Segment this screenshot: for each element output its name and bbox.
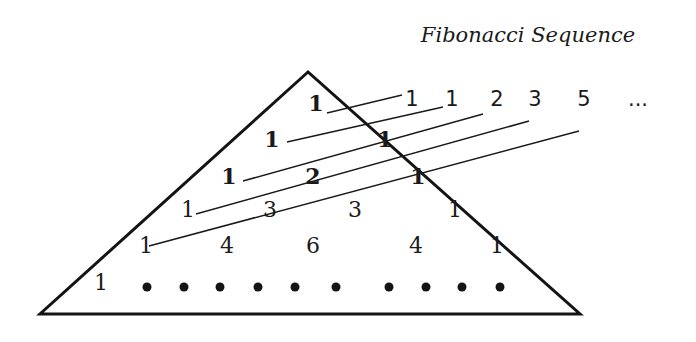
pascal-cell-r4-c2: 6	[306, 233, 320, 258]
pascal-cell-r1-c1: 1	[377, 126, 392, 152]
pascal-cell-r4-c0: 1	[139, 233, 153, 258]
ellipsis-dot-5	[291, 283, 300, 292]
pascal-cell-r4-c3: 4	[409, 233, 423, 258]
ellipsis-dot-4	[254, 283, 263, 292]
pascal-cell-r2-c2: 1	[410, 163, 425, 189]
diagonal-line-4	[196, 121, 529, 214]
fibonacci-term-4: 3	[528, 87, 541, 111]
pascal-cell-r2-c0: 1	[221, 163, 236, 189]
pascal-cell-r3-c0: 1	[181, 197, 195, 222]
diagram-title: Fibonacci Sequence	[420, 23, 635, 47]
pascal-cell-r4-c1: 4	[220, 233, 234, 258]
pascal-cell-r5-c0: 1	[94, 270, 108, 295]
ellipsis-dot-10	[496, 283, 505, 292]
pascal-fibonacci-diagram: Fibonacci Sequence 1111211331146411 1123…	[0, 0, 696, 342]
ellipsis-dot-3	[216, 283, 225, 292]
pascal-cell-r2-c1: 2	[305, 163, 320, 189]
bottom-row-ellipsis-dots	[143, 283, 505, 292]
ellipsis-dot-9	[458, 283, 467, 292]
pascal-cell-r1-c0: 1	[264, 126, 279, 152]
fibonacci-term-1: 1	[405, 87, 418, 111]
pascal-cell-r3-c1: 3	[263, 197, 277, 222]
fibonacci-term-3: 2	[490, 87, 503, 111]
ellipsis-dot-1	[143, 283, 152, 292]
ellipsis-dot-8	[422, 283, 431, 292]
pascal-cell-r4-c4: 1	[490, 233, 504, 258]
ellipsis-dot-2	[180, 283, 189, 292]
pascal-cell-r3-c2: 3	[348, 197, 362, 222]
pascal-cell-r0-c0: 1	[308, 90, 323, 116]
fibonacci-term-5: 5	[577, 87, 590, 111]
fibonacci-term-2: 1	[445, 87, 458, 111]
ellipsis-dot-6	[332, 283, 341, 292]
pascal-cell-r3-c3: 1	[448, 197, 462, 222]
diagonal-line-5	[149, 131, 579, 246]
fibonacci-diagonal-lines	[149, 95, 579, 246]
sequence-ellipsis: ...	[628, 87, 648, 111]
ellipsis-dot-7	[385, 283, 394, 292]
